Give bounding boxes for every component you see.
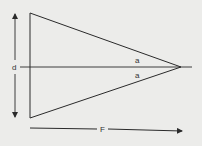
- cone-triangle: [30, 13, 181, 118]
- diameter-label: d: [12, 63, 16, 72]
- focal-length-label: F: [100, 125, 105, 134]
- angle-lower-label: a: [135, 71, 140, 80]
- lower-edge: [30, 67, 181, 118]
- angle-upper-label: a: [135, 56, 140, 65]
- upper-edge: [30, 13, 181, 67]
- lens-cone-diagram: d a a F: [0, 0, 202, 146]
- focal-length-arrow: [30, 128, 182, 131]
